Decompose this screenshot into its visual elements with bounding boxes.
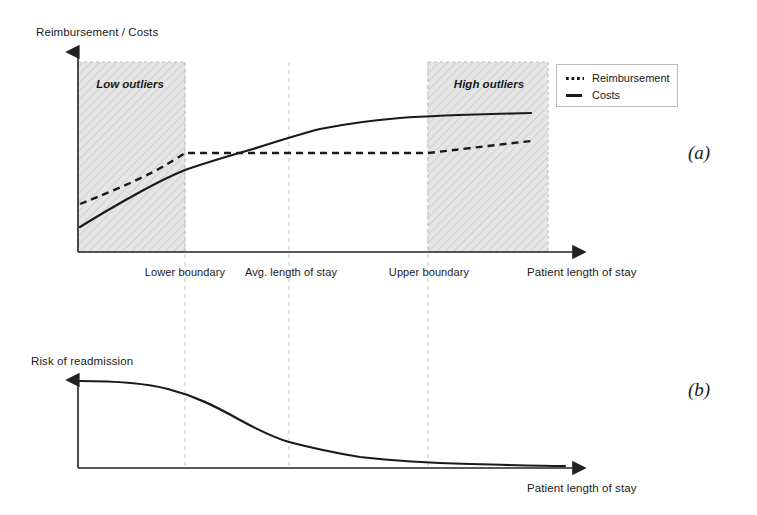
panel-a-tick-upper-boundary: Upper boundary bbox=[389, 266, 469, 278]
panel-b-label: (b) bbox=[688, 379, 710, 401]
legend-item-costs: Costs bbox=[565, 87, 677, 103]
legend-label-reimbursement: Reimbursement bbox=[592, 72, 670, 84]
figure-container: Reimbursement / Costs Low outliers High … bbox=[0, 0, 757, 515]
band-low-outliers bbox=[78, 62, 185, 252]
panel-b-x-axis-label: Patient length of stay bbox=[527, 482, 637, 494]
panel-a-y-axis-label: Reimbursement / Costs bbox=[36, 26, 158, 38]
panel-a-x-axis-label: Patient length of stay bbox=[527, 266, 637, 278]
panel-a-label: (a) bbox=[688, 142, 710, 164]
legend: Reimbursement Costs bbox=[556, 64, 678, 107]
legend-label-costs: Costs bbox=[592, 89, 620, 101]
legend-item-reimbursement: Reimbursement bbox=[565, 70, 677, 86]
legend-swatch-solid-icon bbox=[565, 90, 585, 100]
band-label-high-outliers: High outliers bbox=[454, 78, 524, 90]
series-risk-of-readmission-line bbox=[80, 381, 565, 466]
panel-a-tick-avg-length-of-stay: Avg. length of stay bbox=[245, 266, 337, 278]
band-high-outliers bbox=[428, 62, 548, 252]
legend-swatch-dotted-icon bbox=[565, 73, 585, 83]
band-label-low-outliers: Low outliers bbox=[96, 78, 164, 90]
panel-a-tick-lower-boundary: Lower boundary bbox=[145, 266, 225, 278]
panel-b-y-axis-label: Risk of readmission bbox=[31, 355, 133, 367]
